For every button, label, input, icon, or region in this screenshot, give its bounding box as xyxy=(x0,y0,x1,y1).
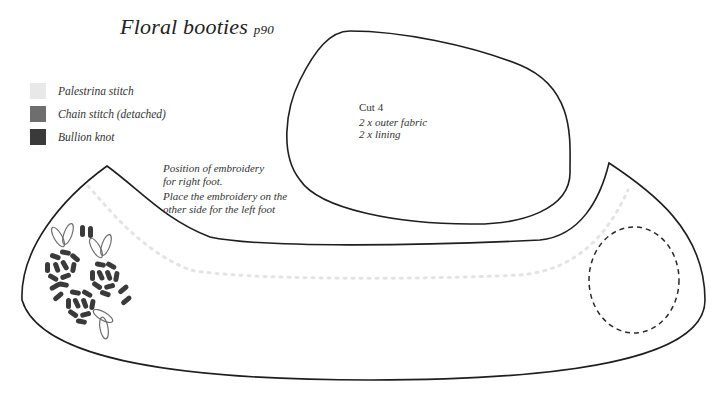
embroidery-position-note: Position of embroidery for right foot. P… xyxy=(163,162,287,215)
legend-label: Palestrina stitch xyxy=(58,85,134,97)
sole-cut-heading: Cut 4 xyxy=(359,101,427,114)
legend-item-bullion: Bullion knot xyxy=(30,125,166,148)
legend-label: Chain stitch (detached) xyxy=(58,108,166,120)
placement-circle xyxy=(589,227,679,333)
note-line: Position of embroidery xyxy=(163,162,287,175)
legend-item-palestrina: Palestrina stitch xyxy=(30,79,166,102)
page-title: Floral booties p90 xyxy=(120,14,274,40)
stitch-legend: Palestrina stitch Chain stitch (detached… xyxy=(30,79,166,148)
palestrina-swatch xyxy=(30,83,46,99)
page-reference: p90 xyxy=(254,22,274,37)
bullion-swatch xyxy=(30,129,46,145)
sole-cut-line-2: 2 x lining xyxy=(359,128,427,141)
note-line: other side for the left foot xyxy=(163,203,287,216)
pattern-drawing xyxy=(0,0,717,394)
upper-pattern-outline xyxy=(22,163,705,380)
sole-pattern-outline xyxy=(287,31,570,224)
sole-cut-line-1: 2 x outer fabric xyxy=(359,116,427,129)
embroidery-motif xyxy=(45,222,133,339)
note-line: Place the embroidery on the xyxy=(163,190,287,203)
chain-swatch xyxy=(30,106,46,122)
title-text: Floral booties xyxy=(120,14,248,39)
legend-label: Bullion knot xyxy=(58,131,115,143)
legend-item-chain: Chain stitch (detached) xyxy=(30,102,166,125)
note-line: for right foot. xyxy=(163,175,287,188)
sole-cut-note: Cut 4 2 x outer fabric 2 x lining xyxy=(359,101,427,141)
